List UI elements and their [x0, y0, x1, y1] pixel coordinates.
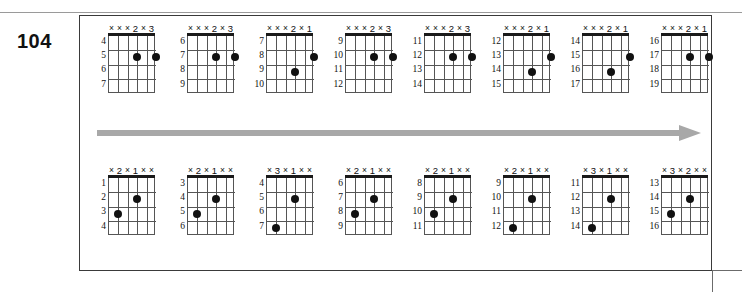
finger-number: 1	[606, 166, 613, 175]
mute-marker-icon: ×	[298, 24, 305, 33]
fret-number: 6	[165, 34, 185, 48]
fret-line	[267, 192, 314, 193]
finger-number: 2	[353, 166, 360, 175]
fret-number: 14	[481, 62, 501, 76]
fret-number-column: 891011	[402, 176, 422, 233]
finger-dot	[607, 195, 615, 203]
finger-dot	[389, 53, 397, 61]
chord-fingering-markers: ×××2×3	[108, 22, 155, 33]
fret-number: 4	[165, 190, 185, 204]
fret-line	[346, 65, 393, 66]
chord-diagram: ×××2×311121314	[402, 22, 481, 110]
fret-number: 9	[481, 176, 501, 190]
fret-number-column: 6789	[165, 34, 185, 91]
fret-line	[504, 65, 551, 66]
mute-marker-icon: ×	[124, 166, 131, 175]
page-corner-mark	[712, 270, 742, 292]
fret-line	[188, 192, 235, 193]
finger-dot	[152, 53, 160, 61]
fret-number-column: 14151617	[560, 34, 580, 91]
fretboard-grid	[108, 33, 155, 93]
fret-number: 17	[560, 77, 580, 91]
finger-dot	[667, 210, 675, 218]
fret-number: 10	[323, 48, 343, 62]
fret-number-column: 11121314	[402, 34, 422, 91]
mute-marker-icon: ×	[148, 166, 155, 175]
finger-dot	[626, 53, 634, 61]
fretboard-grid	[187, 175, 234, 235]
finger-dot	[686, 53, 694, 61]
finger-dot	[547, 53, 555, 61]
fret-line	[504, 207, 551, 208]
fret-number: 17	[639, 48, 659, 62]
fret-line	[188, 221, 235, 222]
fret-line	[188, 65, 235, 66]
finger-number: 3	[590, 166, 597, 175]
mute-marker-icon: ×	[503, 24, 510, 33]
finger-dot	[509, 224, 517, 232]
fret-line	[662, 221, 709, 222]
finger-dot	[193, 210, 201, 218]
fret-number: 5	[244, 190, 264, 204]
fret-line	[346, 79, 393, 80]
finger-dot	[133, 195, 141, 203]
finger-dot	[310, 53, 318, 61]
fret-number-column: 78910	[244, 34, 264, 91]
fret-number: 9	[165, 77, 185, 91]
fret-number: 7	[244, 219, 264, 233]
mute-marker-icon: ×	[266, 166, 273, 175]
fret-number: 11	[402, 219, 422, 233]
fret-number-column: 1234	[86, 176, 106, 233]
chord-fingering-markers: ×××2×1	[661, 22, 708, 33]
fret-number: 13	[481, 48, 501, 62]
fret-number-column: 12131415	[481, 34, 501, 91]
chord-fingering-markers: ×××2×1	[503, 22, 550, 33]
fret-line	[583, 221, 630, 222]
fret-number-column: 13141516	[639, 176, 659, 233]
finger-number: 2	[432, 166, 439, 175]
finger-number: 1	[369, 166, 376, 175]
chord-diagram: ×××2×39101112	[323, 22, 402, 110]
fret-line	[425, 50, 472, 51]
fret-line	[188, 79, 235, 80]
fretboard-grid	[266, 33, 313, 93]
fret-number: 11	[560, 176, 580, 190]
page-canvas: 104 ×××2×34567×××2×36789×××2×178910×××2×…	[0, 0, 742, 308]
fret-line	[267, 50, 314, 51]
chord-fingering-markers: ×2×1××	[503, 164, 550, 175]
chord-diagram: ×××2×178910	[244, 22, 323, 110]
fretboard-grid	[582, 33, 629, 93]
finger-number: 1	[701, 24, 708, 33]
finger-number: 1	[622, 24, 629, 33]
fret-number: 7	[244, 34, 264, 48]
fret-number: 12	[481, 219, 501, 233]
fret-line	[662, 65, 709, 66]
mute-marker-icon: ×	[701, 166, 708, 175]
finger-number: 3	[227, 24, 234, 33]
mute-marker-icon: ×	[187, 166, 194, 175]
grid-body	[424, 36, 471, 93]
fret-number-column: 16171819	[639, 34, 659, 91]
fret-number: 7	[323, 190, 343, 204]
chord-strip-1: ×××2×34567×××2×36789×××2×178910×××2×3910…	[79, 22, 712, 110]
fret-number: 3	[86, 204, 106, 218]
grid-body	[108, 36, 155, 93]
fret-number: 13	[560, 204, 580, 218]
mute-marker-icon: ×	[598, 24, 605, 33]
mute-marker-icon: ×	[353, 24, 360, 33]
fret-line	[346, 221, 393, 222]
fretboard-grid	[503, 33, 550, 93]
fret-line	[267, 65, 314, 66]
finger-number: 2	[685, 24, 692, 33]
mute-marker-icon: ×	[282, 166, 289, 175]
fret-line	[346, 192, 393, 193]
mute-marker-icon: ×	[661, 24, 668, 33]
fret-number: 8	[165, 62, 185, 76]
fret-number: 4	[86, 219, 106, 233]
finger-dot	[607, 68, 615, 76]
mute-marker-icon: ×	[456, 24, 463, 33]
mute-marker-icon: ×	[614, 166, 621, 175]
finger-dot	[133, 53, 141, 61]
grid-body	[345, 36, 392, 93]
fret-number: 19	[639, 77, 659, 91]
